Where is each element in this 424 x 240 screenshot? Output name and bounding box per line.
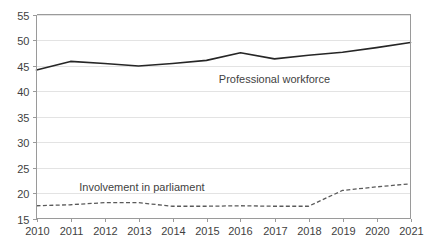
- x-tick-label-2015: 2015: [195, 225, 219, 237]
- x-tick-label-2013: 2013: [127, 225, 151, 237]
- x-tick-label-2012: 2012: [93, 225, 117, 237]
- y-tick-label-35: 35: [17, 112, 29, 124]
- series-label-involvement-in-parliament: Involvement in parliament: [79, 181, 204, 193]
- y-tick-label-30: 30: [17, 137, 29, 149]
- x-tick-label-2011: 2011: [60, 225, 84, 237]
- x-tick-label-2020: 2020: [365, 225, 389, 237]
- x-tick-label-2017: 2017: [263, 225, 287, 237]
- y-tick-label-55: 55: [17, 10, 29, 22]
- y-axis-tick-labels: 152025303540455055: [17, 10, 29, 226]
- y-tick-label-50: 50: [17, 35, 29, 47]
- chart-background: [0, 0, 424, 240]
- x-tick-label-2010: 2010: [25, 225, 49, 237]
- line-chart: 152025303540455055 201020112012201320142…: [0, 0, 424, 240]
- y-tick-label-25: 25: [17, 163, 29, 175]
- chart-canvas: 152025303540455055 201020112012201320142…: [0, 0, 424, 240]
- x-tick-label-2014: 2014: [161, 225, 185, 237]
- y-tick-label-40: 40: [17, 86, 29, 98]
- y-tick-label-45: 45: [17, 61, 29, 73]
- y-tick-label-20: 20: [17, 188, 29, 200]
- x-tick-label-2019: 2019: [331, 225, 355, 237]
- series-label-professional-workforce: Professional workforce: [219, 73, 330, 85]
- x-tick-label-2016: 2016: [228, 225, 252, 237]
- x-tick-label-2021: 2021: [399, 225, 423, 237]
- x-tick-label-2018: 2018: [297, 225, 321, 237]
